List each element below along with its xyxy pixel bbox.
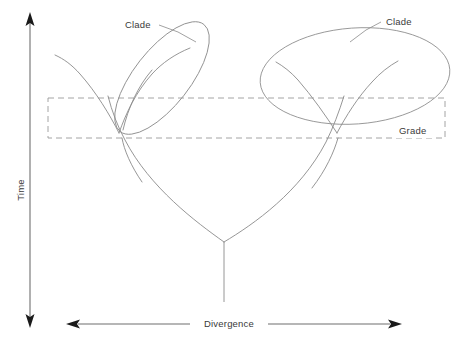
tree-branch-right-below-band	[312, 138, 338, 188]
phylogenetic-tree-svg: Time Divergence	[0, 0, 464, 340]
time-axis-label: Time	[15, 179, 26, 201]
clade-right-label: Clade	[386, 16, 412, 27]
grade-band	[48, 98, 445, 138]
tree-branches	[55, 48, 398, 302]
clade-left-ellipse	[98, 7, 226, 149]
divergence-axis-arrowhead-right	[388, 320, 402, 329]
divergence-axis: Divergence	[66, 318, 402, 329]
time-axis: Time	[15, 12, 35, 328]
tree-branch-right-inner-b	[337, 61, 398, 133]
tree-branch-main-right	[224, 96, 344, 242]
clade-right-leader-line	[350, 22, 381, 42]
diagram-canvas: Time Divergence	[0, 0, 464, 340]
tree-branch-left-inner-a	[55, 55, 119, 133]
tree-branch-left-inner-b	[119, 48, 190, 133]
clade-left-label: Clade	[125, 19, 151, 30]
clade-right-annotation: Clade	[350, 16, 412, 42]
grade-annotation: Grade	[396, 124, 436, 138]
tree-branch-right-inner-a	[276, 62, 337, 133]
divergence-axis-arrowhead-left	[66, 320, 80, 329]
grade-label: Grade	[399, 125, 426, 136]
grade-band-rect	[48, 98, 445, 138]
tree-branch-main-left	[108, 96, 224, 242]
divergence-axis-label: Divergence	[204, 318, 254, 329]
tree-branch-left-below-band	[122, 138, 142, 182]
